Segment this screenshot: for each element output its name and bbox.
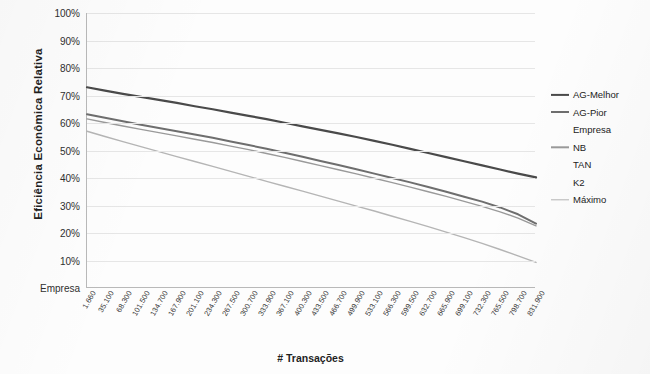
x-axis-tick: 1.660: [80, 289, 97, 310]
legend-label: TAN: [573, 159, 591, 170]
y-axis-tick: 40%: [0, 173, 80, 184]
legend-label: Empresa: [573, 124, 611, 135]
legend-swatch-icon: [551, 108, 569, 117]
gridline: [87, 151, 535, 152]
x-axis-title: # Transações: [86, 352, 535, 364]
y-axis-tick: Empresa: [0, 283, 80, 294]
legend-item[interactable]: Máximo: [551, 191, 650, 209]
y-axis-tick: 10%: [0, 255, 80, 266]
x-axis-tick: 35.100: [96, 289, 116, 314]
y-axis-tick-labels: 100%90%80%70%60%50%40%30%20%10%Empresa: [0, 0, 82, 374]
gridline: [87, 96, 535, 97]
gridline: [87, 68, 535, 69]
chart-figure: Eficiência Econômica Relativa 100%90%80%…: [0, 0, 650, 374]
chart-legend: AG-MelhorAG-PiorEmpresaNBTANK2Máximo: [551, 86, 650, 209]
legend-item[interactable]: K2: [551, 174, 650, 192]
legend-label: AG-Melhor: [573, 89, 619, 100]
y-axis-tick: 30%: [0, 200, 80, 211]
legend-swatch-icon: [551, 178, 569, 187]
legend-swatch-icon: [551, 195, 569, 204]
gridline: [87, 178, 535, 179]
gridline: [87, 13, 535, 14]
gridline: [87, 123, 535, 124]
legend-swatch-icon: [551, 125, 569, 134]
y-axis-tick: 80%: [0, 63, 80, 74]
gridline: [87, 261, 535, 262]
legend-label: Máximo: [573, 194, 606, 205]
legend-swatch-icon: [551, 143, 569, 152]
gridline: [87, 233, 535, 234]
y-axis-tick: 20%: [0, 228, 80, 239]
legend-label: K2: [573, 177, 585, 188]
y-axis-tick: 90%: [0, 35, 80, 46]
legend-swatch-icon: [551, 90, 569, 99]
legend-item[interactable]: AG-Melhor: [551, 86, 650, 104]
series-line: [87, 114, 536, 223]
legend-swatch-icon: [551, 160, 569, 169]
x-axis-tick-labels: 1.66035.10068.300101.500134.700167.90020…: [86, 289, 535, 359]
plot-area: [86, 13, 535, 288]
y-axis-tick: 50%: [0, 145, 80, 156]
y-axis-tick: 100%: [0, 8, 80, 19]
y-axis-tick: 60%: [0, 118, 80, 129]
legend-item[interactable]: TAN: [551, 156, 650, 174]
series-line: [87, 119, 536, 226]
y-axis-tick: 70%: [0, 90, 80, 101]
legend-item[interactable]: Empresa: [551, 121, 650, 139]
gridline: [87, 206, 535, 207]
legend-item[interactable]: AG-Pior: [551, 104, 650, 122]
legend-item[interactable]: NB: [551, 139, 650, 157]
legend-label: NB: [573, 142, 586, 153]
legend-label: AG-Pior: [573, 107, 607, 118]
gridline: [87, 41, 535, 42]
